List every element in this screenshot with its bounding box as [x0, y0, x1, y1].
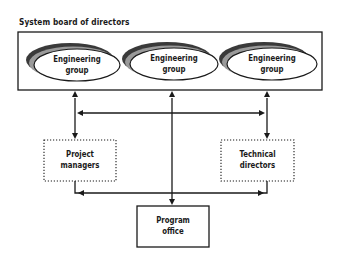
engineering-group-1-label: Engineering group: [37, 54, 117, 76]
arrow-down-right: [264, 133, 270, 139]
arrow-down-center: [169, 199, 175, 205]
arrow-left-lower: [78, 190, 84, 196]
arrow-left-upper: [77, 110, 83, 116]
arrow-up-center: [169, 91, 175, 97]
program-office-label: Program office: [137, 215, 209, 237]
arrow-up-left: [72, 91, 78, 97]
arrow-right-upper: [259, 110, 265, 116]
engineering-group-2-label: Engineering group: [134, 53, 214, 75]
arrow-down-left: [72, 133, 78, 139]
arrow-right-lower: [258, 190, 264, 196]
project-managers-label: Project managers: [44, 149, 116, 171]
arrow-up-right: [264, 91, 270, 97]
engineering-group-3-label: Engineering group: [232, 53, 312, 75]
technical-directors-label: Technical directors: [221, 149, 294, 171]
